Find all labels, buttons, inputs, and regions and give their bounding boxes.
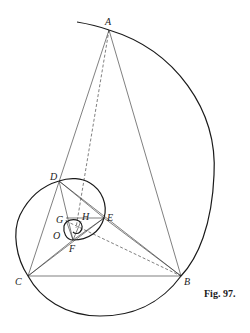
label-A: A <box>104 16 112 27</box>
label-G: G <box>56 214 63 225</box>
spiral-curve <box>16 22 214 316</box>
segment-EC <box>28 218 104 276</box>
label-H: H <box>81 211 90 222</box>
spiral-geometry-diagram: A B C D E F G H O Fig. 97. <box>0 0 250 333</box>
label-E: E <box>106 212 113 223</box>
segment-DB <box>59 181 181 276</box>
segment-EB <box>104 218 181 276</box>
label-D: D <box>49 171 58 182</box>
label-C: C <box>15 276 22 287</box>
segment-AB <box>109 30 181 276</box>
label-O: O <box>53 230 60 241</box>
segment-GB-dashed <box>66 221 181 276</box>
segment-DF <box>59 181 73 240</box>
label-B: B <box>184 276 190 287</box>
label-F: F <box>68 243 76 254</box>
figure-caption: Fig. 97. <box>204 288 236 299</box>
segment-FC <box>28 240 73 276</box>
